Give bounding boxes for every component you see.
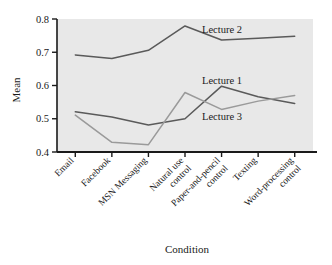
series-label: Lecture 2	[202, 24, 242, 35]
y-tick-label: 0.7	[36, 47, 49, 58]
x-axis-title: Condition	[165, 243, 210, 255]
series-label: Lecture 3	[202, 111, 242, 122]
y-tick-label: 0.5	[36, 113, 49, 124]
y-tick-label: 0.6	[36, 80, 49, 91]
line-chart: 0.40.50.60.70.8 EmailFacebookMSN Messagi…	[0, 0, 332, 265]
y-tick-label: 0.4	[36, 147, 50, 158]
series-label: Lecture 1	[202, 75, 242, 86]
y-tick-label: 0.8	[36, 14, 49, 25]
plot-area-background	[57, 19, 313, 152]
y-axis-title: Mean	[10, 77, 22, 103]
chart-container: 0.40.50.60.70.8 EmailFacebookMSN Messagi…	[0, 0, 332, 265]
